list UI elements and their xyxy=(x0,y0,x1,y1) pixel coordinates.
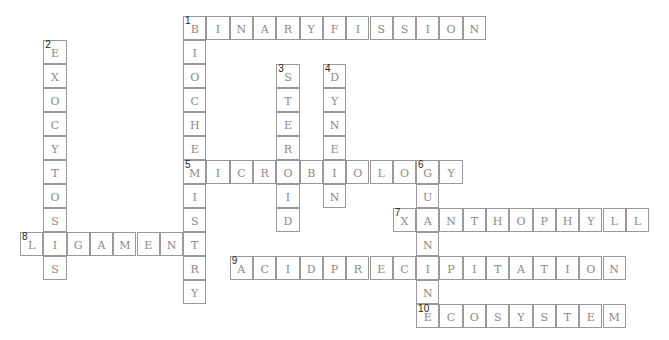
crossword-cell[interactable]: O xyxy=(439,16,462,40)
crossword-cell[interactable]: T xyxy=(463,208,486,232)
crossword-cell[interactable]: N xyxy=(323,184,346,208)
crossword-cell[interactable]: I xyxy=(556,256,579,280)
crossword-cell[interactable]: 2E xyxy=(43,40,66,64)
crossword-cell[interactable]: 3S xyxy=(276,64,299,88)
crossword-cell[interactable]: 8L xyxy=(20,232,43,256)
crossword-cell[interactable]: R xyxy=(183,256,206,280)
crossword-cell[interactable]: C xyxy=(393,256,416,280)
crossword-cell[interactable]: I xyxy=(206,16,229,40)
crossword-cell[interactable]: 7X xyxy=(393,208,416,232)
crossword-cell[interactable]: N xyxy=(323,112,346,136)
crossword-cell[interactable]: Y xyxy=(43,136,66,160)
crossword-cell[interactable]: R xyxy=(346,256,369,280)
crossword-cell[interactable]: P xyxy=(533,208,556,232)
crossword-cell[interactable]: O xyxy=(183,64,206,88)
crossword-cell[interactable]: X xyxy=(43,64,66,88)
crossword-cell[interactable]: R xyxy=(253,160,276,184)
crossword-cell[interactable]: E xyxy=(183,136,206,160)
crossword-cell[interactable]: G xyxy=(67,232,90,256)
crossword-cell[interactable]: T xyxy=(556,304,579,328)
crossword-cell[interactable]: M xyxy=(603,304,626,328)
crossword-cell[interactable]: S xyxy=(370,16,393,40)
crossword-cell[interactable]: I xyxy=(323,160,346,184)
crossword-cell[interactable]: I xyxy=(206,160,229,184)
crossword-cell[interactable]: A xyxy=(90,232,113,256)
crossword-cell[interactable]: T xyxy=(486,256,509,280)
crossword-cell[interactable]: I xyxy=(183,184,206,208)
crossword-cell[interactable]: T xyxy=(533,256,556,280)
crossword-cell[interactable]: 5M xyxy=(183,160,206,184)
crossword-cell[interactable]: A xyxy=(509,256,532,280)
crossword-cell[interactable]: L xyxy=(603,208,626,232)
crossword-cell[interactable]: N xyxy=(416,232,439,256)
crossword-cell[interactable]: I xyxy=(416,256,439,280)
crossword-cell[interactable]: O xyxy=(393,160,416,184)
crossword-cell[interactable]: S xyxy=(43,208,66,232)
crossword-cell[interactable]: I xyxy=(416,16,439,40)
crossword-cell[interactable]: T xyxy=(183,232,206,256)
crossword-cell[interactable]: C xyxy=(43,112,66,136)
crossword-cell[interactable]: A xyxy=(416,208,439,232)
crossword-cell[interactable]: Y xyxy=(439,160,462,184)
crossword-cell[interactable]: T xyxy=(43,160,66,184)
crossword-cell[interactable]: N xyxy=(416,280,439,304)
crossword-cell[interactable]: 9A xyxy=(230,256,253,280)
crossword-cell[interactable]: Y xyxy=(183,280,206,304)
crossword-cell[interactable]: N xyxy=(230,16,253,40)
crossword-cell[interactable]: C xyxy=(439,304,462,328)
crossword-cell[interactable]: E xyxy=(276,112,299,136)
crossword-cell[interactable]: O xyxy=(43,88,66,112)
crossword-cell[interactable]: I xyxy=(183,40,206,64)
crossword-cell[interactable]: M xyxy=(113,232,136,256)
crossword-cell[interactable]: I xyxy=(43,232,66,256)
crossword-cell[interactable]: H xyxy=(183,112,206,136)
crossword-cell[interactable]: O xyxy=(346,160,369,184)
crossword-cell[interactable]: I xyxy=(346,16,369,40)
crossword-cell[interactable]: 6G xyxy=(416,160,439,184)
crossword-cell[interactable]: R xyxy=(276,136,299,160)
crossword-cell[interactable]: O xyxy=(579,256,602,280)
crossword-cell[interactable]: E xyxy=(323,136,346,160)
crossword-cell[interactable]: A xyxy=(253,16,276,40)
crossword-cell[interactable]: N xyxy=(463,16,486,40)
crossword-cell[interactable]: L xyxy=(626,208,649,232)
crossword-cell[interactable]: N xyxy=(439,208,462,232)
crossword-cell[interactable]: S xyxy=(43,256,66,280)
crossword-cell[interactable]: S xyxy=(486,304,509,328)
crossword-cell[interactable]: C xyxy=(183,88,206,112)
crossword-cell[interactable]: U xyxy=(416,184,439,208)
crossword-cell[interactable]: C xyxy=(230,160,253,184)
crossword-cell[interactable]: H xyxy=(486,208,509,232)
crossword-cell[interactable]: O xyxy=(43,184,66,208)
crossword-cell[interactable]: Y xyxy=(300,16,323,40)
crossword-cell[interactable]: P xyxy=(323,256,346,280)
crossword-cell[interactable]: F xyxy=(323,16,346,40)
crossword-cell[interactable]: E xyxy=(579,304,602,328)
crossword-cell[interactable]: 4D xyxy=(323,64,346,88)
crossword-cell[interactable]: I xyxy=(463,256,486,280)
crossword-cell[interactable]: N xyxy=(603,256,626,280)
crossword-cell[interactable]: P xyxy=(439,256,462,280)
crossword-cell[interactable]: Y xyxy=(509,304,532,328)
crossword-cell[interactable]: Y xyxy=(323,88,346,112)
crossword-cell[interactable]: 1B xyxy=(183,16,206,40)
crossword-cell[interactable]: C xyxy=(253,256,276,280)
crossword-cell[interactable]: R xyxy=(276,16,299,40)
crossword-cell[interactable]: I xyxy=(276,256,299,280)
crossword-cell[interactable]: E xyxy=(137,232,160,256)
crossword-cell[interactable]: O xyxy=(276,160,299,184)
crossword-cell[interactable]: S xyxy=(393,16,416,40)
crossword-cell[interactable]: O xyxy=(463,304,486,328)
crossword-cell[interactable]: Y xyxy=(579,208,602,232)
crossword-cell[interactable]: O xyxy=(509,208,532,232)
crossword-cell[interactable]: H xyxy=(556,208,579,232)
crossword-cell[interactable]: L xyxy=(370,160,393,184)
crossword-cell[interactable]: B xyxy=(300,160,323,184)
crossword-cell[interactable]: N xyxy=(160,232,183,256)
crossword-cell[interactable]: T xyxy=(276,88,299,112)
crossword-cell[interactable]: 10E xyxy=(416,304,439,328)
crossword-cell[interactable]: S xyxy=(533,304,556,328)
crossword-cell[interactable]: E xyxy=(370,256,393,280)
crossword-cell[interactable]: I xyxy=(276,184,299,208)
crossword-cell[interactable]: D xyxy=(300,256,323,280)
